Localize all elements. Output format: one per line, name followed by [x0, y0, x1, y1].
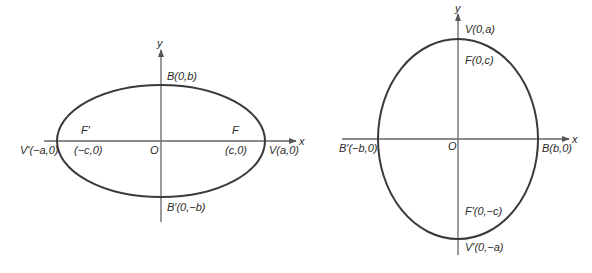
vertex-left-label: V′(−a,0) [20, 144, 59, 156]
origin-label: O [448, 140, 457, 152]
focus-right-name: F [232, 124, 240, 136]
x-axis-label: x [298, 135, 305, 147]
focus-bottom-label: F′(0,−c) [465, 205, 503, 217]
y-axis-label: y [454, 2, 462, 14]
vertical-ellipse-diagram: y x V(0,a) F(0,c) F′(0,−c) V′(0,−a) B′(−… [339, 2, 578, 255]
covertex-bottom-label: B′(0,−b) [167, 201, 206, 213]
x-axis-label: x [571, 133, 578, 145]
focus-left-coord: (−c,0) [74, 144, 103, 156]
vertex-bottom-label: V′(0,−a) [465, 241, 504, 253]
covertex-right-label: B(b,0) [542, 142, 572, 154]
focus-right-coord: (c,0) [225, 144, 247, 156]
covertex-left-label: B′(−b,0) [339, 142, 378, 154]
covertex-top-label: B(0,b) [167, 70, 197, 82]
vertex-top-label: V(0,a) [465, 23, 495, 35]
vertex-right-label: V(a,0) [269, 144, 299, 156]
focus-top-label: F(0,c) [465, 54, 494, 66]
ellipse-diagrams: y x B(0,b) B′(0,−b) V′(−a,0) V(a,0) O F′… [0, 0, 592, 273]
origin-label: O [150, 144, 159, 156]
horizontal-ellipse-diagram: y x B(0,b) B′(0,−b) V′(−a,0) V(a,0) O F′… [20, 37, 305, 222]
focus-left-name: F′ [81, 124, 91, 136]
y-axis-label: y [156, 37, 164, 49]
diagram-canvas: y x B(0,b) B′(0,−b) V′(−a,0) V(a,0) O F′… [0, 0, 592, 273]
